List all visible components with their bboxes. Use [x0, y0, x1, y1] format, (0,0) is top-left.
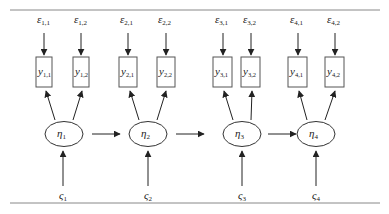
arrow: [157, 91, 166, 120]
disturbance-label: ς4: [312, 189, 320, 203]
error-label: ε2,2: [158, 13, 172, 27]
error-label: ε4,2: [327, 13, 341, 27]
arrow: [46, 91, 55, 120]
disturbance-label: ς2: [144, 189, 152, 203]
disturbance-arrows: [63, 151, 316, 186]
disturbance-label: ς3: [238, 189, 246, 203]
error-label: ε3,2: [243, 13, 257, 27]
arrow: [251, 91, 252, 120]
error-label: ε1,2: [74, 13, 88, 27]
error-label: ε1,1: [37, 13, 51, 27]
error-arrows: [44, 33, 335, 55]
arrow: [325, 91, 335, 120]
arrow: [299, 91, 307, 120]
error-terms: ε1,1 ε1,2 ε2,1 ε2,2 ε3,1 ε3,2 ε4,1 ε4,2: [37, 13, 341, 27]
sem-path-diagram: ε1,1 ε1,2 ε2,1 ε2,2 ε3,1 ε3,2 ε4,1 ε4,2 …: [0, 0, 389, 214]
error-label: ε4,1: [290, 13, 304, 27]
arrow: [130, 91, 139, 120]
error-label: ε3,1: [215, 13, 229, 27]
arrow: [73, 91, 82, 120]
disturbance-labels: ς1 ς2 ς3 ς4: [59, 189, 320, 203]
loading-arrows: [46, 91, 335, 120]
error-label: ε2,1: [120, 13, 134, 27]
disturbance-label: ς1: [59, 189, 67, 203]
arrow: [224, 91, 233, 120]
